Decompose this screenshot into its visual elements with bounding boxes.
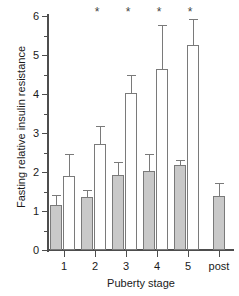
insulin-resistance-bar-chart: Fasting relative insulin resistance 0123… [0, 0, 239, 296]
bar [94, 144, 106, 250]
significance-marker: * [157, 6, 162, 18]
error-bar-stem [149, 154, 150, 171]
bar [174, 165, 186, 250]
y-tick-label: 1 [33, 206, 39, 217]
y-tick-label: 0 [33, 245, 39, 256]
bar [50, 205, 62, 250]
bar [63, 176, 75, 250]
significance-marker: * [126, 6, 131, 18]
x-tick [219, 251, 220, 257]
significance-marker: * [95, 6, 100, 18]
bar [213, 196, 225, 250]
error-bar-stem [87, 190, 88, 197]
error-bar-cap [176, 160, 185, 161]
error-bar-cap [127, 75, 136, 76]
error-bar-cap [158, 25, 167, 26]
error-bar-stem [56, 195, 57, 206]
bar [143, 171, 155, 250]
bar [81, 197, 93, 250]
y-tick-major [42, 250, 48, 251]
y-axis-ticks: 0123456 [0, 0, 48, 296]
error-bar-cap [83, 190, 92, 191]
x-tick-label: 1 [61, 260, 67, 272]
x-tick [64, 251, 65, 257]
error-bar-cap [114, 162, 123, 163]
error-bar-stem [69, 154, 70, 175]
x-tick-label: post [209, 260, 230, 272]
x-axis-title: Puberty stage [48, 277, 234, 289]
y-tick-label: 3 [33, 128, 39, 139]
x-tick-label: 5 [185, 260, 191, 272]
error-bar-stem [162, 25, 163, 69]
error-bar-stem [100, 126, 101, 143]
y-tick-label: 5 [33, 50, 39, 61]
error-bar-cap [215, 183, 224, 184]
error-bar-stem [131, 75, 132, 93]
error-bar-cap [65, 154, 74, 155]
error-bar-cap [96, 126, 105, 127]
error-bar-stem [193, 19, 194, 46]
error-bar-stem [118, 162, 119, 175]
bar [112, 175, 124, 250]
plot-area [48, 16, 234, 250]
x-tick [126, 251, 127, 257]
x-tick-label: 3 [123, 260, 129, 272]
bar [156, 69, 168, 250]
y-tick-label: 6 [33, 11, 39, 22]
bar [187, 45, 199, 250]
y-tick-label: 2 [33, 167, 39, 178]
x-tick-label: 4 [154, 260, 160, 272]
bar [125, 93, 137, 250]
x-tick-label: 2 [92, 260, 98, 272]
error-bar-stem [219, 183, 220, 197]
error-bar-cap [145, 154, 154, 155]
error-bar-cap [52, 195, 61, 196]
x-tick [95, 251, 96, 257]
significance-marker: * [188, 6, 193, 18]
x-tick [188, 251, 189, 257]
x-tick [157, 251, 158, 257]
y-tick-label: 4 [33, 89, 39, 100]
